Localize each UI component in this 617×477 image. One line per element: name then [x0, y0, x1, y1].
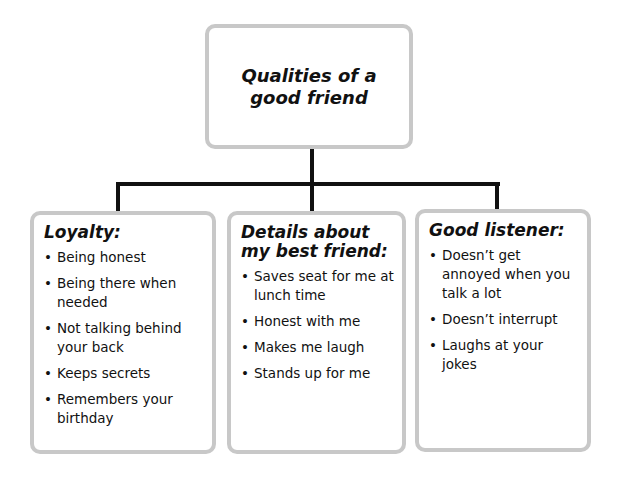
branch-item-list: •Being honest •Being there when needed •…	[44, 248, 204, 428]
bullet-icon: •	[429, 310, 437, 329]
list-item-text: Doesn’t get annoyed when you talk a lot	[442, 247, 570, 301]
list-item-text: Honest with me	[254, 313, 360, 329]
list-item: •Honest with me	[241, 312, 394, 331]
root-node: Qualities of a good friend	[205, 24, 413, 149]
list-item: •Being honest	[44, 248, 204, 267]
branch-title: Details about my best friend:	[241, 223, 394, 261]
list-item-text: Makes me laugh	[254, 339, 364, 355]
bullet-icon: •	[44, 319, 52, 338]
connector-horizontal	[116, 182, 500, 186]
bullet-icon: •	[44, 390, 52, 409]
bullet-icon: •	[241, 364, 249, 383]
bullet-icon: •	[241, 267, 249, 286]
branch-item-list: •Saves seat for me at lunch time •Honest…	[241, 267, 394, 383]
branch-title: Good listener:	[429, 221, 579, 240]
list-item: •Stands up for me	[241, 364, 394, 383]
bullet-icon: •	[241, 338, 249, 357]
list-item-text: Not talking behind your back	[57, 320, 182, 355]
branch-best-friend-details: Details about my best friend: •Saves sea…	[227, 211, 406, 454]
list-item: •Being there when needed	[44, 274, 204, 312]
list-item-text: Stands up for me	[254, 365, 370, 381]
root-title: Qualities of a good friend	[209, 65, 409, 109]
list-item-text: Saves seat for me at lunch time	[254, 268, 394, 303]
list-item: •Keeps secrets	[44, 364, 204, 383]
connector-root-vertical	[310, 149, 314, 185]
connector-right-vertical	[495, 182, 499, 212]
list-item-text: Being there when needed	[57, 275, 176, 310]
list-item: •Doesn’t get annoyed when you talk a lot	[429, 246, 579, 303]
bullet-icon: •	[44, 274, 52, 293]
list-item-text: Keeps secrets	[57, 365, 150, 381]
list-item: •Not talking behind your back	[44, 319, 204, 357]
list-item-text: Doesn’t interrupt	[442, 311, 558, 327]
branch-loyalty: Loyalty: •Being honest •Being there when…	[30, 211, 216, 454]
list-item-text: Remembers your birthday	[57, 391, 173, 426]
connector-left-vertical	[116, 182, 120, 213]
list-item: •Laughs at your jokes	[429, 336, 579, 374]
branch-good-listener: Good listener: •Doesn’t get annoyed when…	[415, 209, 591, 452]
list-item-text: Being honest	[57, 249, 146, 265]
list-item-text: Laughs at your jokes	[442, 337, 543, 372]
bullet-icon: •	[429, 246, 437, 265]
bullet-icon: •	[429, 336, 437, 355]
branch-title: Loyalty:	[44, 223, 204, 242]
bullet-icon: •	[44, 248, 52, 267]
connector-middle-vertical	[310, 182, 314, 213]
list-item: •Saves seat for me at lunch time	[241, 267, 394, 305]
list-item: •Doesn’t interrupt	[429, 310, 579, 329]
branch-item-list: •Doesn’t get annoyed when you talk a lot…	[429, 246, 579, 374]
bullet-icon: •	[241, 312, 249, 331]
bullet-icon: •	[44, 364, 52, 383]
list-item: •Makes me laugh	[241, 338, 394, 357]
list-item: •Remembers your birthday	[44, 390, 204, 428]
